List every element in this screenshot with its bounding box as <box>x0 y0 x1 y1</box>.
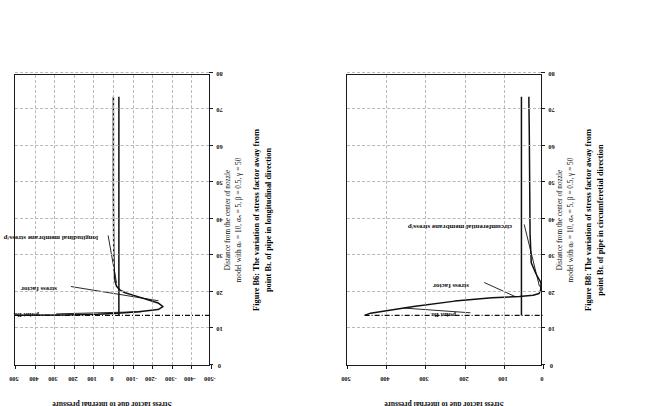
y-tick <box>74 365 75 369</box>
x-tick-label: 0 <box>218 363 221 370</box>
figure-b8-caption: Distance from the center of nozzle model… <box>554 74 606 366</box>
annotation-leader-line <box>524 224 539 286</box>
gridline-vertical <box>15 182 209 183</box>
y-tick-label: 0 <box>103 376 121 383</box>
y-tick-label: -300 <box>162 376 180 383</box>
y-tick <box>152 365 153 369</box>
gridline-vertical <box>347 72 541 73</box>
x-tick <box>209 182 213 183</box>
gridline-vertical <box>347 145 541 146</box>
figure-page: 01020304050607080-500-400-300-200-100010… <box>0 0 664 406</box>
annotation-label: stress factor <box>21 285 57 293</box>
figure-b6-body: 01020304050607080-500-400-300-200-100010… <box>0 0 332 406</box>
figure-b8-container: 010203040506070800100200300400500 Stress… <box>332 0 664 406</box>
y-tick-label: 100 <box>83 376 101 383</box>
y-tick <box>347 365 348 369</box>
x-tick <box>541 291 545 292</box>
series-stress-factor <box>15 97 163 316</box>
gridline-horizontal <box>191 75 192 365</box>
y-tick <box>172 365 173 369</box>
y-tick-label: 300 <box>44 376 62 383</box>
y-tick <box>15 365 16 369</box>
y-tick-label: 400 <box>25 376 43 383</box>
gridline-horizontal <box>152 75 153 365</box>
gridline-horizontal <box>133 75 134 365</box>
annotation-label: point Bʟ <box>14 311 40 319</box>
caption-line2-b6: point Bʟ of pipe in longitudinal directi… <box>263 74 275 366</box>
y-tick <box>504 365 505 369</box>
x-tick <box>209 145 213 146</box>
gridline-horizontal <box>113 75 114 365</box>
annotation-label: circumferential membrane stress/p <box>408 223 512 231</box>
y-tick-label: 0 <box>533 376 551 383</box>
gridline-horizontal <box>425 75 426 365</box>
annotation-leader-line <box>71 287 159 301</box>
caption-line1-b6: Figure B6: The variation of stress facto… <box>251 74 263 366</box>
x-tick <box>209 109 213 110</box>
x-axis-title-line1-b6: Distance from the center of nozzle <box>222 74 233 366</box>
gridline-vertical <box>15 109 209 110</box>
gridline-horizontal <box>465 75 466 365</box>
gridline-vertical <box>15 145 209 146</box>
x-tick <box>209 255 213 256</box>
x-axis-title-line2-b8: model with αₚ = 10, αₙ = 5, β = 0.5, γ =… <box>565 74 576 366</box>
x-tick <box>541 145 545 146</box>
y-tick <box>211 365 212 369</box>
y-tick <box>425 365 426 369</box>
y-tick-label: -100 <box>123 376 141 383</box>
x-tick <box>209 72 213 73</box>
y-tick <box>93 365 94 369</box>
gridline-vertical <box>347 182 541 183</box>
y-tick-label: 200 <box>455 376 473 383</box>
y-tick <box>386 365 387 369</box>
x-tick-label: 0 <box>550 363 553 370</box>
y-tick <box>113 365 114 369</box>
y-tick <box>465 365 466 369</box>
figure-b8-body: 010203040506070800100200300400500 Stress… <box>332 0 664 406</box>
y-tick <box>191 365 192 369</box>
plot-area-b6 <box>14 74 210 366</box>
y-tick <box>54 365 55 369</box>
annotation-leader-line <box>484 283 515 297</box>
x-tick <box>209 291 213 292</box>
y-tick <box>543 365 544 369</box>
y-tick-label: 300 <box>415 376 433 383</box>
annotation-label: point Bʟ <box>430 311 456 319</box>
gridline-vertical <box>347 218 541 219</box>
x-tick <box>541 109 545 110</box>
x-tick <box>209 328 213 329</box>
gridline-vertical <box>15 328 209 329</box>
gridline-vertical <box>347 109 541 110</box>
x-axis-title-line1-b8: Distance from the center of nozzle <box>554 74 565 366</box>
x-tick <box>541 182 545 183</box>
figure-b6-container: 01020304050607080-500-400-300-200-100010… <box>0 0 332 406</box>
gridline-vertical <box>15 72 209 73</box>
gridline-horizontal <box>172 75 173 365</box>
x-tick <box>541 72 545 73</box>
y-tick <box>35 365 36 369</box>
gridline-horizontal <box>74 75 75 365</box>
gridline-horizontal <box>386 75 387 365</box>
y-tick-label: 500 <box>337 376 355 383</box>
caption-line1-b8: Figure B8: The variation of stress facto… <box>583 74 595 366</box>
caption-line2-b8: point Bʟ of pipe in circumferetial direc… <box>595 74 607 366</box>
y-tick-label: -400 <box>181 376 199 383</box>
gridline-horizontal <box>35 75 36 365</box>
gridline-vertical <box>347 328 541 329</box>
y-tick <box>133 365 134 369</box>
x-tick <box>209 218 213 219</box>
curves-b8 <box>347 73 543 365</box>
gridline-vertical <box>15 218 209 219</box>
y-tick-label: 100 <box>494 376 512 383</box>
x-tick <box>541 255 545 256</box>
gridline-vertical <box>347 255 541 256</box>
x-tick <box>541 218 545 219</box>
y-tick-label: 500 <box>5 376 23 383</box>
gridline-horizontal <box>93 75 94 365</box>
plot-area-b8 <box>346 74 542 366</box>
annotation-label: longitudinal membrane stress/p <box>4 234 98 242</box>
gridline-vertical <box>347 291 541 292</box>
y-tick-label: 400 <box>376 376 394 383</box>
figure-b6-caption: Distance from the center of nozzle model… <box>222 74 274 366</box>
gridline-horizontal <box>504 75 505 365</box>
